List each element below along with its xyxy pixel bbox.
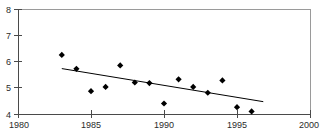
x-tick-label-1980: 1980 bbox=[9, 120, 29, 130]
data-point bbox=[88, 88, 94, 94]
x-tick-label-1990: 1990 bbox=[154, 120, 174, 130]
y-tick-label-6: 6 bbox=[6, 57, 11, 67]
x-tick-label-1995: 1995 bbox=[227, 120, 247, 130]
data-point bbox=[176, 76, 182, 82]
y-tick-label-7: 7 bbox=[6, 31, 11, 41]
data-point bbox=[234, 104, 240, 110]
trend-line bbox=[62, 69, 263, 102]
data-point bbox=[103, 84, 109, 90]
y-tick-label-5: 5 bbox=[6, 83, 11, 93]
y-tick-label-4: 4 bbox=[6, 110, 11, 120]
scatter-markers bbox=[59, 52, 255, 115]
data-point bbox=[117, 62, 123, 68]
data-point bbox=[146, 80, 152, 86]
x-tick-label-2000: 2000 bbox=[299, 120, 319, 130]
y-tick-label-8: 8 bbox=[6, 5, 11, 15]
chart-container: 8 7 6 5 4 1980 1985 1990 1995 2000 bbox=[0, 0, 324, 136]
x-tick-label-1985: 1985 bbox=[81, 120, 101, 130]
data-point bbox=[59, 52, 65, 58]
data-point bbox=[161, 100, 167, 106]
data-point bbox=[205, 90, 211, 96]
scatter-plot-svg: 8 7 6 5 4 1980 1985 1990 1995 2000 bbox=[0, 0, 324, 136]
data-point bbox=[219, 77, 225, 83]
data-point bbox=[190, 84, 196, 90]
